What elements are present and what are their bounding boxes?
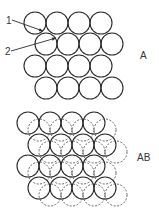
sphere-a	[79, 33, 101, 55]
sphere-a	[28, 134, 50, 156]
sphere-a	[90, 55, 112, 77]
panel-a-label: A	[140, 51, 147, 61]
callout-2-label: 2	[5, 47, 11, 57]
arrowhead-icon	[39, 28, 43, 31]
sphere-a	[17, 112, 39, 134]
sphere-a	[35, 77, 57, 99]
callout-arrow-1	[12, 20, 43, 31]
callout-1-label: 1	[6, 16, 12, 26]
sphere-a	[68, 12, 90, 34]
sphere-a	[79, 77, 101, 99]
sphere-a	[90, 12, 112, 34]
layer-a-circles	[24, 12, 123, 99]
sphere-a	[28, 177, 50, 199]
sphere-a	[46, 12, 68, 34]
sphere-a	[57, 77, 79, 99]
callout-lines	[11, 20, 56, 51]
sphere-a	[35, 33, 57, 55]
sphere-a	[57, 33, 79, 55]
sphere-a	[46, 55, 68, 77]
callout-arrow-2	[11, 38, 56, 51]
sphere-a	[68, 55, 90, 77]
sphere-a	[101, 77, 123, 99]
close-packing-diagram	[0, 0, 159, 211]
sphere-a	[17, 155, 39, 177]
sphere-a	[24, 55, 46, 77]
sphere-a	[101, 33, 123, 55]
panel-ab-label: AB	[137, 153, 150, 163]
